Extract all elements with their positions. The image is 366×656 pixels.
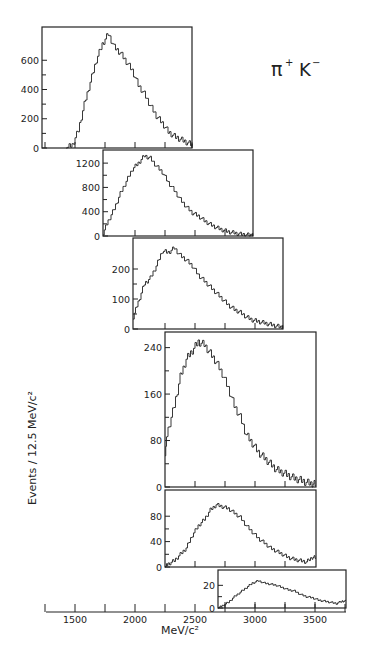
y-tick-label: 80 xyxy=(150,511,162,522)
panel-frame xyxy=(165,490,316,567)
histogram-trace xyxy=(165,504,316,567)
y-tick-label: 200 xyxy=(21,113,39,124)
y-tick-label: 0 xyxy=(156,482,162,493)
panel-2: 04008001200 xyxy=(76,150,253,242)
panel-5: 04080 xyxy=(150,490,316,573)
x-tick-label: 3000 xyxy=(243,614,267,625)
y-tick-label: 0 xyxy=(33,143,39,154)
y-tick-label: 600 xyxy=(21,55,39,66)
panel-6: 020 xyxy=(203,570,346,614)
x-axis-label: MeV/c² xyxy=(161,624,199,637)
y-tick-label: 0 xyxy=(94,231,100,242)
histogram-trace xyxy=(66,34,192,148)
histogram-trace xyxy=(103,155,253,236)
x-axis: 15002000250030003500 xyxy=(45,604,346,625)
histogram-trace xyxy=(165,340,316,487)
y-tick-label: 400 xyxy=(82,206,100,217)
reaction-title: π + K − xyxy=(271,57,320,80)
y-tick-label: 1200 xyxy=(76,158,100,169)
histogram-trace xyxy=(218,581,346,608)
panel-frame xyxy=(103,150,253,236)
x-tick-label: 1500 xyxy=(63,614,87,625)
y-tick-label: 0 xyxy=(156,562,162,573)
panel-3: 0100200 xyxy=(112,238,283,335)
title-pi: π xyxy=(271,58,282,80)
y-tick-label: 800 xyxy=(82,182,100,193)
title-minus: − xyxy=(312,57,320,68)
y-tick-label: 160 xyxy=(144,389,162,400)
y-tick-label: 80 xyxy=(150,435,162,446)
x-tick-label: 3500 xyxy=(303,614,327,625)
y-tick-label: 20 xyxy=(203,580,215,591)
y-tick-label: 240 xyxy=(144,342,162,353)
y-tick-label: 400 xyxy=(21,84,39,95)
x-tick-label: 2000 xyxy=(123,614,147,625)
title-k: K xyxy=(299,59,312,80)
y-tick-label: 100 xyxy=(112,294,130,305)
histogram-panels: 0200400600040080012000100200080160240040… xyxy=(21,27,346,614)
panel-frame xyxy=(42,27,192,148)
title-plus: + xyxy=(285,57,293,68)
panel-4: 080160240 xyxy=(144,332,316,493)
y-tick-label: 0 xyxy=(124,324,130,335)
panel-frame xyxy=(133,238,283,329)
histogram-trace xyxy=(133,247,283,329)
y-tick-label: 200 xyxy=(112,264,130,275)
panel-1: 0200400600 xyxy=(21,27,192,154)
histogram-figure: 0200400600040080012000100200080160240040… xyxy=(0,0,366,656)
y-tick-label: 40 xyxy=(150,536,162,547)
y-axis-label: Events / 12.5 MeV/c² xyxy=(26,391,39,505)
